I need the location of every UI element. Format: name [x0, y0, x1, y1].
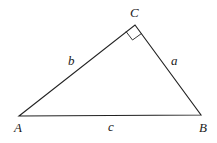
side-label-c: c: [108, 120, 114, 133]
vertex-label-c: C: [130, 6, 139, 19]
side-label-a: a: [171, 54, 178, 67]
vertex-label-b: B: [199, 121, 207, 134]
side-label-b: b: [68, 54, 75, 67]
vertex-label-a: A: [14, 121, 22, 134]
triangle-abc: [19, 25, 201, 116]
right-angle-marker: [126, 32, 142, 41]
